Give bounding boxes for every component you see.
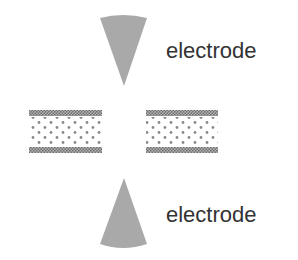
- electrode-bottom-icon: [100, 178, 147, 248]
- diagram-canvas: electrode electrode: [0, 0, 298, 260]
- electrode-top-label: electrode: [166, 40, 257, 62]
- left-block: [29, 110, 102, 153]
- electrode-top-icon: [100, 15, 147, 86]
- right-block: [146, 110, 218, 153]
- electrode-bottom-label: electrode: [166, 204, 257, 226]
